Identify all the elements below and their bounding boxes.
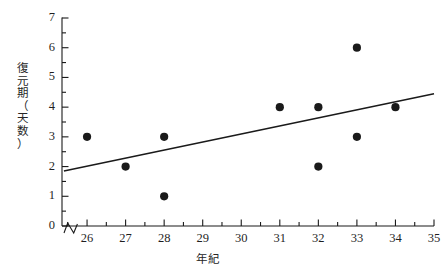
x-axis-tick-label: 30: [230, 231, 252, 246]
y-axis-tick-label: 3: [41, 129, 55, 144]
y-axis-tick-label: 0: [41, 218, 55, 233]
data-point: [160, 192, 168, 200]
data-point: [314, 103, 322, 111]
y-axis-label-char: 復: [14, 62, 31, 75]
data-point: [276, 103, 284, 111]
y-axis-tick-label: 6: [41, 40, 55, 55]
data-point: [160, 133, 168, 141]
x-axis-label: 年紀: [196, 250, 220, 266]
x-axis-tick-label: 31: [269, 231, 291, 246]
x-axis-tick-label: 32: [307, 231, 329, 246]
data-point: [353, 133, 361, 141]
data-point: [122, 162, 130, 170]
data-point: [83, 133, 91, 141]
y-axis-label-char: ）: [14, 138, 31, 151]
data-point: [353, 44, 361, 52]
y-axis-tick-label: 5: [41, 69, 55, 84]
x-axis-tick-label: 28: [153, 231, 175, 246]
data-point: [314, 162, 322, 170]
y-axis-tick-label: 4: [41, 99, 55, 114]
y-axis-tick-label: 2: [41, 159, 55, 174]
y-axis-label: 復 元 期 （ 天 数 ）: [14, 62, 31, 150]
x-axis-tick-label: 33: [346, 231, 368, 246]
x-axis-tick-label: 35: [423, 231, 445, 246]
x-axis-tick-label: 26: [76, 231, 98, 246]
y-axis-label-char: 数: [14, 125, 31, 138]
y-axis-tick-label: 1: [41, 188, 55, 203]
x-axis-tick-label: 34: [384, 231, 406, 246]
y-axis-tick-label: 7: [41, 10, 55, 25]
trend-line: [64, 94, 434, 171]
y-axis-label-char: 期: [14, 87, 31, 100]
data-point: [391, 103, 399, 111]
x-axis-tick-label: 29: [192, 231, 214, 246]
x-axis-tick-label: 27: [115, 231, 137, 246]
